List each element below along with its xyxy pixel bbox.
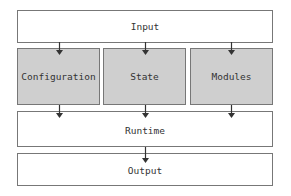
modules-box: Modules: [190, 48, 273, 105]
arrow-down-icon: [55, 105, 64, 119]
arrow-down-icon: [227, 105, 236, 119]
runtime-label: Runtime: [125, 125, 165, 136]
input-label: Input: [131, 21, 160, 32]
arrow-down-icon: [141, 42, 150, 56]
state-box: State: [103, 48, 186, 105]
modules-label: Modules: [211, 71, 251, 82]
configuration-label: Configuration: [21, 71, 95, 82]
output-label: Output: [128, 165, 162, 176]
input-box: Input: [17, 10, 273, 43]
arrow-down-icon: [141, 105, 150, 119]
state-label: State: [130, 71, 159, 82]
configuration-box: Configuration: [17, 48, 100, 105]
arrow-down-icon: [55, 42, 64, 56]
arrow-down-icon: [227, 42, 236, 56]
arrow-down-icon: [141, 147, 150, 164]
